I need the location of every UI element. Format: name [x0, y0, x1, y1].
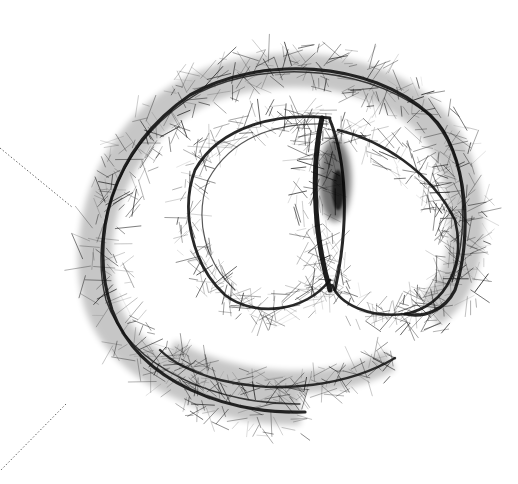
ink-blot-core	[332, 170, 344, 210]
at-sign-illustration	[0, 0, 518, 484]
